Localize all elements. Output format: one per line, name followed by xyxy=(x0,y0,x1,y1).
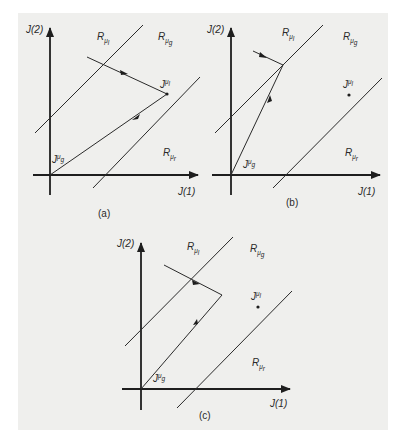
region-label-middle: Rμg xyxy=(158,31,173,47)
region-label-upper: Rμl xyxy=(97,31,110,46)
trajectory xyxy=(50,57,167,175)
boundary-lower xyxy=(177,291,292,408)
local-optimum-point xyxy=(165,92,168,95)
region-label-lower: Rμr xyxy=(163,147,177,162)
caption: (a) xyxy=(98,208,110,219)
x-axis-label: J(1) xyxy=(177,186,195,197)
global-optimum-label: Jμg xyxy=(152,372,166,384)
direction-arrow-icon xyxy=(120,70,128,75)
y-axis-label: J(2) xyxy=(206,24,224,35)
y-axis-label: J(2) xyxy=(116,238,134,249)
boundary-lower xyxy=(273,78,382,188)
x-axis-label: J(1) xyxy=(269,398,287,409)
region-label-lower: Rμr xyxy=(345,147,359,162)
local-optimum-label: Jμl xyxy=(342,78,354,90)
direction-arrow-icon xyxy=(259,52,267,58)
y-axis-label: J(2) xyxy=(25,24,43,35)
local-optimum-point xyxy=(256,305,259,308)
trajectory xyxy=(231,51,283,175)
region-label-upper: Rμl xyxy=(282,27,295,42)
boundary-upper xyxy=(35,25,143,133)
direction-arrow-icon xyxy=(193,319,198,325)
region-label-upper: Rμl xyxy=(187,241,200,256)
panel-c: J(2) J(1) (c) Rμl Rμg Rμr Jμl Jμg xyxy=(116,237,292,421)
local-optimum-label: Jμl xyxy=(250,290,262,302)
x-axis-label: J(1) xyxy=(357,186,375,197)
region-label-lower: Rμr xyxy=(252,357,266,372)
caption: (c) xyxy=(199,410,211,421)
panel-b: J(2) J(1) (b) Rμl Rμg Rμr Jμl Jμg xyxy=(206,24,382,208)
local-optimum-point xyxy=(347,93,350,96)
global-optimum-label: Jμg xyxy=(242,158,256,170)
trajectory xyxy=(141,265,222,389)
region-label-middle: Rμg xyxy=(250,243,265,259)
boundary-lower xyxy=(93,77,200,188)
region-label-middle: Rμg xyxy=(343,31,358,47)
global-optimum-label: Jμg xyxy=(51,153,65,165)
figure-canvas: J(2) J(1) (a) Rμl Rμg Rμr Jμl Jμg J(2) J… xyxy=(0,0,403,447)
caption: (b) xyxy=(286,197,298,208)
local-optimum-label: Jμl xyxy=(159,78,171,90)
panel-a: J(2) J(1) (a) Rμl Rμg Rμr Jμl Jμg xyxy=(25,24,200,219)
